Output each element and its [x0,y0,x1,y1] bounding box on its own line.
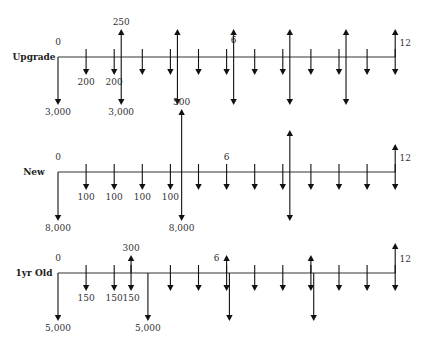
arrow-up-icon [223,255,229,261]
inflow-amount: 500 [173,97,190,107]
arrow-down-icon [139,184,145,190]
period-6-label: 6 [214,253,220,263]
arrow-down-icon [195,285,201,291]
outflow-amount: 100 [162,192,179,202]
arrow-down-icon [252,69,258,75]
row-label: Upgrade [12,52,55,62]
arrow-down-icon [167,69,173,75]
outflow-amount: 8,000 [45,223,71,233]
arrow-down-icon [195,69,201,75]
period-0-label: 0 [55,253,61,263]
arrow-up-icon [308,255,314,261]
inflow-amount: 300 [122,243,139,253]
arrow-down-icon [118,99,124,105]
arrow-up-icon [392,144,398,150]
arrow-down-icon [336,184,342,190]
arrow-down-icon [343,99,349,105]
arrow-down-icon [167,285,173,291]
arrow-down-icon [111,184,117,190]
arrow-down-icon [83,69,89,75]
arrow-up-icon [287,130,293,136]
arrow-down-icon [311,315,317,321]
arrow-down-icon [230,99,236,105]
arrow-down-icon [392,69,398,75]
arrow-down-icon [364,69,370,75]
timeline-upgrade: Upgrade06123,0002002002503,000 [12,17,410,117]
outflow-amount: 5,000 [45,323,71,333]
arrow-down-icon [178,215,184,221]
arrow-down-icon [392,285,398,291]
period-12-label: 12 [399,38,410,48]
row-label: New [23,167,45,177]
arrow-down-icon [280,184,286,190]
arrow-down-icon [223,69,229,75]
outflow-amount: 3,000 [45,107,71,117]
arrow-down-icon [364,285,370,291]
outflow-amount: 200 [106,77,123,87]
arrow-down-icon [287,99,293,105]
outflow-amount: 150 [78,293,95,303]
outflow-amount: 3,000 [108,107,134,117]
period-12-label: 12 [399,153,410,163]
arrow-down-icon [55,99,61,105]
period-6-label: 6 [224,152,230,162]
arrow-up-icon [392,243,398,249]
arrow-down-icon [280,69,286,75]
timeline-new: New06128,0001001001001005008,000 [23,97,411,233]
arrow-down-icon [223,184,229,190]
inflow-amount: 250 [113,17,130,27]
arrow-down-icon [252,184,258,190]
arrow-down-icon [252,285,258,291]
arrow-down-icon [145,315,151,321]
arrow-down-icon [139,69,145,75]
outflow-amount: 100 [78,192,95,202]
arrow-down-icon [223,285,229,291]
arrow-down-icon [226,315,232,321]
arrow-down-icon [111,69,117,75]
arrow-up-icon [230,29,236,35]
arrow-down-icon [336,285,342,291]
arrow-down-icon [83,184,89,190]
arrow-down-icon [392,184,398,190]
arrow-up-icon [178,109,184,115]
row-label: 1yr Old [16,268,54,278]
period-12-label: 12 [399,254,410,264]
arrow-down-icon [287,215,293,221]
arrow-up-icon [287,29,293,35]
arrow-up-icon [343,29,349,35]
timeline-1yr-old: 1yr Old06125,0001501503001505,000 [16,243,411,333]
arrow-down-icon [308,184,314,190]
arrow-down-icon [128,285,134,291]
outflow-amount: 150 [122,293,139,303]
arrow-up-icon [118,29,124,35]
arrow-down-icon [280,285,286,291]
period-0-label: 0 [55,37,61,47]
outflow-amount: 200 [78,77,95,87]
arrow-down-icon [336,69,342,75]
arrow-up-icon [128,255,134,261]
outflow-amount: 5,000 [135,323,161,333]
arrow-up-icon [392,29,398,35]
arrow-down-icon [111,285,117,291]
cash-flow-diagram: Upgrade06123,0002002002503,000New06128,0… [0,0,431,350]
outflow-amount: 100 [106,192,123,202]
arrow-down-icon [308,285,314,291]
arrow-down-icon [308,69,314,75]
arrow-down-icon [55,215,61,221]
arrow-down-icon [195,184,201,190]
outflow-amount: 8,000 [169,223,195,233]
arrow-down-icon [55,315,61,321]
outflow-amount: 100 [134,192,151,202]
arrow-down-icon [83,285,89,291]
arrow-up-icon [174,29,180,35]
arrow-down-icon [364,184,370,190]
outflow-amount: 150 [106,293,123,303]
period-0-label: 0 [55,152,61,162]
arrow-down-icon [167,184,173,190]
